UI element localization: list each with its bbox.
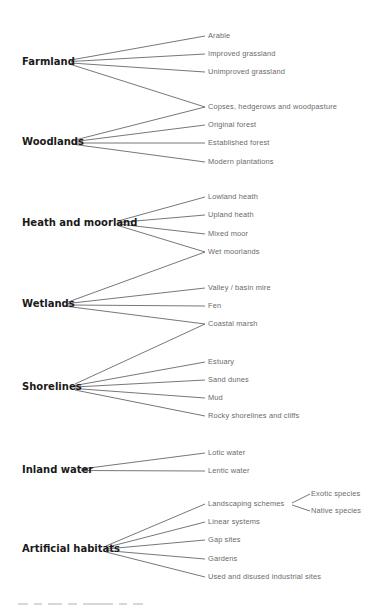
leaf-original-forest: Original forest [208,120,256,129]
leaf-wet-moorlands: Wet moorlands [208,247,260,256]
subleaf-exotic-species: Exotic species [311,489,360,498]
leaf-modern-plantations: Modern plantations [208,157,274,166]
leaf-improved-grassland: Improved grassland [208,49,276,58]
category-woodlands: Woodlands [22,136,84,148]
leaf-copses-hedgerows-woodpasture: Copses, hedgerows and woodpasture [208,102,337,111]
leaf-valley-basin-mire: Valley / basin mire [208,283,271,292]
leaf-lotic-water: Lotic water [208,448,245,457]
leaf-mud: Mud [208,393,223,402]
leaf-landscaping-schemes: Landscaping schemes [208,499,284,508]
leaf-estuary: Estuary [208,357,234,366]
leaf-lentic-water: Lentic water [208,466,250,475]
leaf-upland-heath: Upland heath [208,210,254,219]
category-inland-water: Inland water [22,464,93,476]
cutoff-caption-fragment [18,603,218,608]
category-farmland: Farmland [22,56,75,68]
leaf-coastal-marsh: Coastal marsh [208,319,258,328]
subleaf-native-species: Native species [311,506,361,515]
leaf-arable: Arable [208,31,230,40]
leaf-mixed-moor: Mixed moor [208,229,248,238]
leaf-fen: Fen [208,301,221,310]
leaf-used-disused-industrial-sites: Used and disused industrial sites [208,572,321,581]
leaf-sand-dunes: Sand dunes [208,375,249,384]
leaf-gap-sites: Gap sites [208,535,241,544]
category-heath-and-moorland: Heath and moorland [22,217,137,229]
leaf-rocky-shorelines-cliffs: Rocky shorelines and cliffs [208,411,299,420]
leaf-gardens: Gardens [208,554,237,563]
leaf-unimproved-grassland: Unimproved grassland [208,67,285,76]
category-wetlands: Wetlands [22,298,75,310]
leaf-linear-systems: Linear systems [208,517,260,526]
habitat-tree-diagram: Farmland Woodlands Heath and moorland We… [0,0,381,608]
leaf-established-forest: Established forest [208,138,269,147]
category-artificial-habitats: Artificial habitats [22,543,120,555]
leaf-lowland-heath: Lowland heath [208,192,258,201]
category-shorelines: Shorelines [22,381,82,393]
